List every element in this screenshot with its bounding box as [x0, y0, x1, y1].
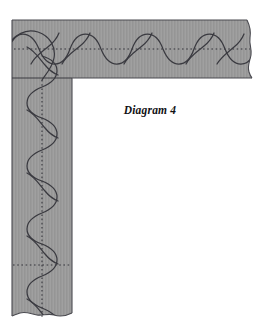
border-band-shape	[12, 20, 252, 316]
diagram-canvas: Diagram 4	[0, 0, 265, 333]
diagram-caption: Diagram 4	[112, 104, 188, 116]
border-pattern-diagram	[0, 0, 265, 333]
